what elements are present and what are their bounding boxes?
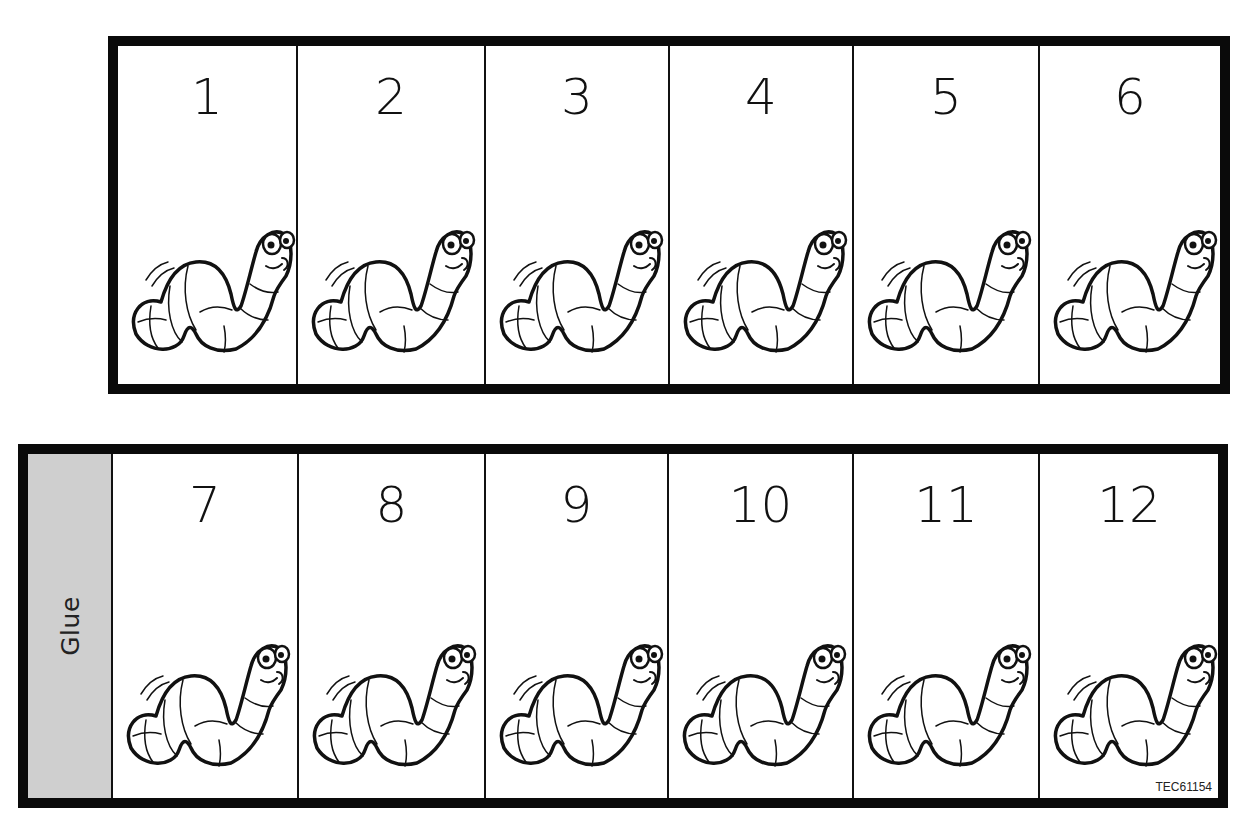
glue-tab: Glue (28, 454, 113, 798)
worm-icon (126, 214, 296, 364)
cell-number: 12 (1040, 476, 1218, 534)
worm-icon (677, 628, 847, 778)
cell-number: 3 (486, 68, 668, 126)
worm-icon (121, 628, 291, 778)
number-cell: 1 (118, 46, 298, 384)
cell-number: 10 (669, 476, 852, 534)
worm-icon (494, 628, 664, 778)
worm-icon (307, 628, 477, 778)
number-cell: 4 (670, 46, 854, 384)
worm-icon (494, 214, 664, 364)
bottom-number-strip: Glue 7 8 9 10 11 12 TEC61154 (18, 444, 1228, 808)
number-cell: 5 (854, 46, 1040, 384)
cell-number: 7 (113, 476, 297, 534)
cell-number: 11 (854, 476, 1038, 534)
number-cell: 10 (669, 454, 854, 798)
number-cell: 8 (299, 454, 486, 798)
cell-number: 1 (118, 68, 296, 126)
cell-number: 5 (854, 68, 1038, 126)
worm-icon (306, 214, 476, 364)
glue-label: Glue (55, 596, 84, 656)
worm-icon (862, 214, 1032, 364)
number-cell: 2 (298, 46, 486, 384)
number-cell: 11 (854, 454, 1040, 798)
worm-icon (1048, 628, 1218, 778)
top-number-strip: 1 2 3 4 5 6 (108, 36, 1230, 394)
product-code: TEC61154 (1156, 780, 1212, 794)
cell-number: 4 (670, 68, 852, 126)
number-cell: 6 (1040, 46, 1220, 384)
worm-icon (678, 214, 848, 364)
cell-number: 9 (486, 476, 667, 534)
cell-number: 8 (299, 476, 484, 534)
number-cell: 9 (486, 454, 669, 798)
number-cell: 7 (113, 454, 299, 798)
cell-number: 6 (1040, 68, 1220, 126)
worm-icon (1048, 214, 1218, 364)
cell-number: 2 (298, 68, 484, 126)
number-cell: 12 TEC61154 (1040, 454, 1218, 798)
number-cell: 3 (486, 46, 670, 384)
worm-icon (862, 628, 1032, 778)
